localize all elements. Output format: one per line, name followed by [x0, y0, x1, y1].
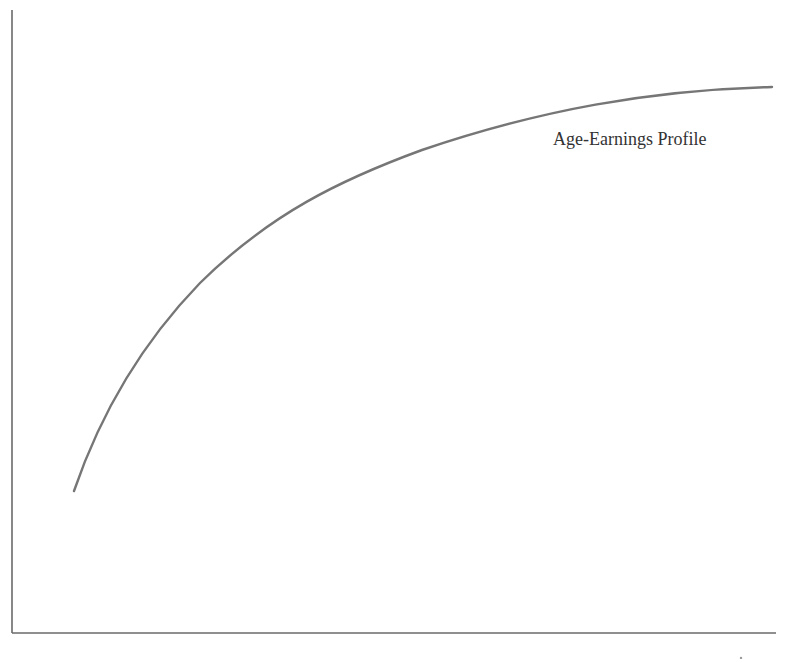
- age-earnings-chart: Age-Earnings Profile: [0, 0, 794, 659]
- curve-label: Age-Earnings Profile: [553, 129, 706, 149]
